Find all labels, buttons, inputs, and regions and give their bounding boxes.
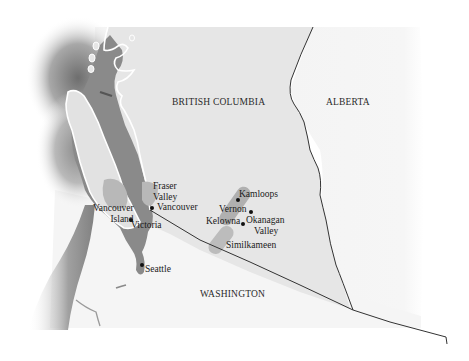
island bbox=[130, 35, 135, 41]
vancouver-island-line1: Vancouver bbox=[93, 203, 134, 214]
city-marker-vernon bbox=[249, 210, 253, 214]
okanagan-valley-line1: Okanagan bbox=[246, 215, 285, 226]
city-label-vernon: Vernon bbox=[219, 205, 246, 215]
wine-region-label-fraser-valley: Fraser Valley bbox=[153, 181, 177, 203]
wine-region-label-okanagan-valley: Okanagan Valley bbox=[246, 215, 285, 237]
city-label-kamloops: Kamloops bbox=[239, 190, 278, 200]
island bbox=[88, 66, 94, 73]
region-label-alberta: ALBERTA bbox=[326, 98, 370, 108]
region-label-british-columbia: BRITISH COLUMBIA bbox=[172, 98, 265, 108]
city-marker-kelowna bbox=[241, 222, 245, 226]
okanagan-valley-line2: Valley bbox=[246, 226, 285, 237]
city-marker-vancouver bbox=[150, 206, 154, 210]
island bbox=[93, 42, 99, 50]
fraser-valley-line1: Fraser bbox=[153, 181, 177, 192]
wine-region-label-vancouver-island: Vancouver Island bbox=[93, 203, 134, 225]
island bbox=[89, 54, 95, 62]
region-label-washington: WASHINGTON bbox=[200, 290, 265, 300]
vancouver-island-line2: Island bbox=[93, 214, 134, 225]
map-canvas bbox=[0, 0, 469, 361]
wine-region-label-similkameen: Similkameen bbox=[226, 241, 276, 251]
city-label-vancouver: Vancouver bbox=[157, 203, 198, 213]
city-label-victoria: Victoria bbox=[131, 221, 162, 231]
city-label-seattle: Seattle bbox=[145, 265, 171, 275]
city-label-kelowna: Kelowna bbox=[206, 217, 240, 227]
city-marker-seattle bbox=[140, 263, 144, 267]
